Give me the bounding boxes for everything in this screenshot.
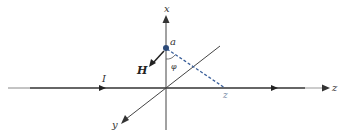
projection-label: z bbox=[222, 90, 228, 100]
field-label: H bbox=[136, 64, 148, 77]
y-axis-label: y bbox=[111, 119, 118, 130]
point-a bbox=[163, 45, 169, 51]
angle-label: φ bbox=[171, 62, 177, 71]
y-axis-arrow-icon bbox=[121, 115, 129, 124]
angle-arc bbox=[166, 55, 175, 59]
current-arrow-icon-2 bbox=[271, 85, 278, 91]
y-axis bbox=[121, 46, 220, 124]
current-label: I bbox=[101, 73, 107, 84]
point-a-label: a bbox=[170, 36, 176, 47]
x-axis-label: x bbox=[164, 3, 170, 14]
current-arrow-icon bbox=[99, 85, 106, 91]
x-axis bbox=[163, 15, 170, 130]
z-axis-label: z bbox=[331, 82, 338, 93]
field-vector bbox=[153, 51, 164, 63]
magnetic-field-diagram: x z y a H I φ z bbox=[0, 0, 341, 140]
z-axis-arrow-icon bbox=[322, 85, 330, 92]
x-axis-arrow-icon bbox=[163, 15, 170, 23]
